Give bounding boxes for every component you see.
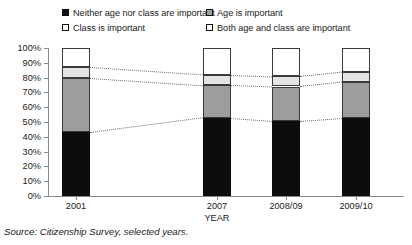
segment-both[interactable]	[203, 48, 231, 75]
y-tick	[44, 122, 48, 123]
x-label-2008-09: 2008/09	[256, 201, 316, 211]
y-tick-label: 20%	[23, 162, 41, 171]
y-tick	[44, 78, 48, 79]
segment-class[interactable]	[62, 67, 90, 77]
gray-square-icon	[206, 9, 213, 16]
segment-neither[interactable]	[272, 121, 300, 196]
segment-age[interactable]	[342, 82, 370, 118]
connector-line	[231, 85, 272, 87]
legend-label-both: Both age and class are important	[217, 23, 350, 33]
segment-class[interactable]	[272, 76, 300, 86]
y-tick	[44, 166, 48, 167]
x-axis-title: YEAR	[187, 213, 247, 223]
y-tick	[44, 107, 48, 108]
legend-row-1: Neither age nor class are important Age …	[62, 6, 402, 19]
connector-line	[300, 118, 342, 122]
connector-line	[90, 118, 203, 134]
x-tick	[217, 196, 218, 200]
connector-line	[300, 72, 342, 77]
x-axis-line	[48, 196, 404, 197]
y-tick-label: 40%	[23, 132, 41, 141]
x-label-2007: 2007	[187, 201, 247, 211]
segment-neither[interactable]	[62, 132, 90, 196]
segment-age[interactable]	[272, 87, 300, 121]
y-tick-label: 60%	[23, 103, 41, 112]
x-tick	[356, 196, 357, 200]
legend-row-2: Class is important Both age and class ar…	[62, 21, 402, 34]
segment-both[interactable]	[272, 48, 300, 76]
y-tick	[44, 196, 48, 197]
legend-item-both: Both age and class are important	[206, 21, 350, 34]
light-square-icon	[62, 24, 69, 31]
segment-both[interactable]	[342, 48, 370, 72]
y-tick-label: 50%	[23, 118, 41, 127]
legend-item-class: Class is important	[62, 21, 145, 34]
white-square-icon	[206, 24, 213, 31]
bar-2009-10[interactable]	[342, 48, 370, 196]
segment-class[interactable]	[342, 72, 370, 82]
y-tick-label: 70%	[23, 88, 41, 97]
y-tick	[44, 63, 48, 64]
source-note: Source: Citizenship Survey, selected yea…	[4, 226, 188, 237]
y-tick	[44, 137, 48, 138]
bar-2007[interactable]	[203, 48, 231, 196]
y-tick-label: 10%	[23, 177, 41, 186]
segment-neither[interactable]	[203, 118, 231, 196]
connector-line	[90, 67, 203, 75]
chart-legend: Neither age nor class are important Age …	[62, 6, 402, 36]
y-tick	[44, 152, 48, 153]
segment-age[interactable]	[203, 85, 231, 118]
y-tick	[44, 181, 48, 182]
x-tick	[286, 196, 287, 200]
y-tick-label: 90%	[23, 58, 41, 67]
segment-both[interactable]	[62, 48, 90, 67]
y-tick-label: 30%	[23, 147, 41, 156]
legend-item-neither: Neither age nor class are important	[62, 6, 215, 19]
y-tick	[44, 92, 48, 93]
segment-neither[interactable]	[342, 118, 370, 196]
plot-area: 100%90%80%70%60%50%40%30%20%10%0%	[48, 48, 404, 196]
segment-age[interactable]	[62, 78, 90, 133]
legend-label-class: Class is important	[73, 23, 145, 33]
x-label-2001: 2001	[46, 201, 106, 211]
stacked-bar-chart-figure: Neither age nor class are important Age …	[0, 0, 412, 245]
legend-label-neither: Neither age nor class are important	[73, 8, 215, 18]
legend-item-age: Age is important	[206, 6, 283, 19]
connector-line	[300, 82, 342, 87]
y-tick	[44, 48, 48, 49]
y-tick-label: 100%	[18, 44, 42, 53]
bar-2008-09[interactable]	[272, 48, 300, 196]
connector-line	[90, 78, 203, 86]
x-tick	[76, 196, 77, 200]
legend-label-age: Age is important	[217, 8, 283, 18]
black-square-icon	[62, 9, 69, 16]
connector-line	[231, 118, 272, 122]
x-label-2009-10: 2009/10	[326, 201, 386, 211]
segment-class[interactable]	[203, 75, 231, 85]
connector-line	[231, 75, 272, 77]
y-tick-label: 80%	[23, 73, 41, 82]
bar-2001[interactable]	[62, 48, 90, 196]
y-axis-line	[48, 48, 49, 197]
y-tick-label: 0%	[28, 192, 41, 201]
